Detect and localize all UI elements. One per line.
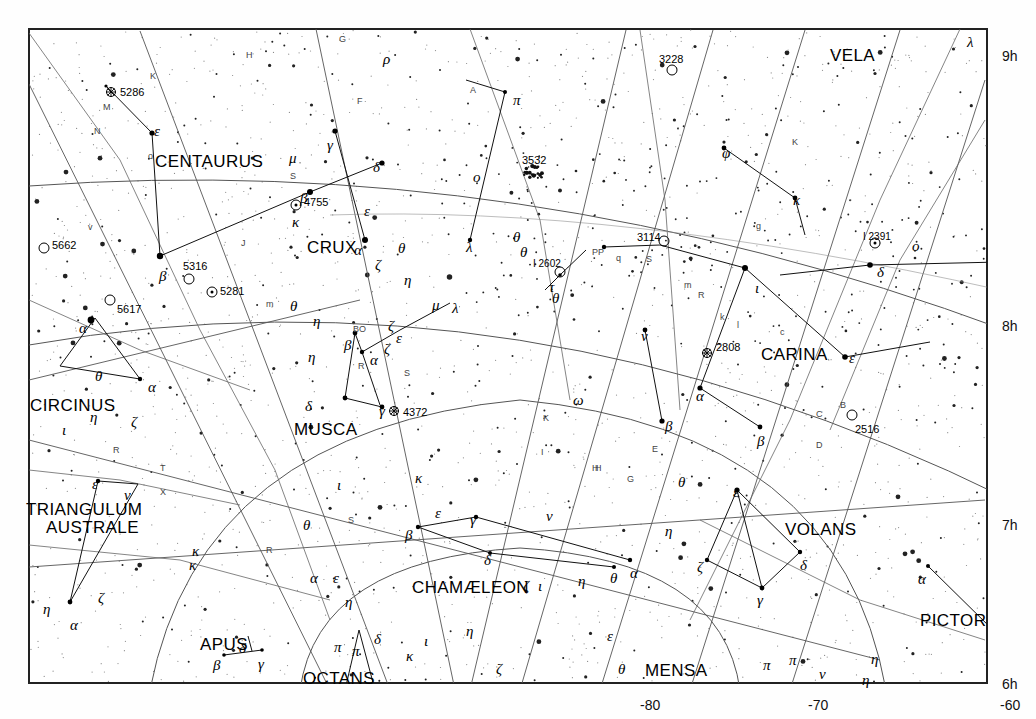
star-point <box>228 199 229 200</box>
star-point <box>522 357 523 358</box>
star-point <box>227 276 228 277</box>
star-point <box>583 457 584 458</box>
bayer-letter: π <box>513 92 521 109</box>
star-point <box>654 289 655 290</box>
star-point <box>311 527 312 528</box>
star-point <box>431 392 434 395</box>
star-point <box>624 47 626 49</box>
star-point <box>280 158 281 159</box>
star-point <box>272 263 273 264</box>
star-point <box>715 249 716 250</box>
star-point <box>265 154 266 155</box>
star-point <box>680 246 682 248</box>
star-point <box>456 61 457 62</box>
star-point <box>331 178 332 179</box>
star-point <box>566 64 567 65</box>
star-point <box>48 78 49 79</box>
star-point <box>720 606 721 607</box>
star-point <box>242 361 243 362</box>
star-point <box>216 470 217 471</box>
star-point <box>642 36 643 37</box>
star-point <box>773 325 775 327</box>
star-point <box>803 188 804 189</box>
star-letter-label: J <box>241 238 246 248</box>
star-point <box>314 391 315 392</box>
star-point <box>355 486 356 487</box>
star-point <box>832 82 833 83</box>
star-point <box>870 578 871 579</box>
deep-sky-object[interactable] <box>106 87 116 97</box>
star-point <box>859 291 860 292</box>
star-point <box>800 121 801 122</box>
star-point <box>143 298 144 299</box>
star-point <box>686 478 687 479</box>
star-point <box>137 563 142 568</box>
star-point <box>680 343 682 345</box>
star-point <box>601 99 606 104</box>
star-point <box>260 49 261 50</box>
bayer-letter: η <box>308 349 315 366</box>
star-point <box>292 64 295 67</box>
star-point <box>185 416 186 417</box>
star-point <box>665 144 667 146</box>
star-point <box>775 108 777 110</box>
star-point <box>564 502 565 503</box>
star-point <box>614 616 615 617</box>
star-point <box>665 515 666 516</box>
constellation-name: CIRCINUS <box>30 396 115 416</box>
star-point <box>440 368 441 369</box>
bayer-letter: θ <box>290 298 297 315</box>
deep-sky-object[interactable] <box>389 406 399 416</box>
star-point <box>409 76 411 78</box>
star-point <box>114 267 115 268</box>
star-point <box>951 283 953 285</box>
star-point <box>963 544 964 545</box>
star-point <box>732 267 733 268</box>
star-point <box>407 130 408 131</box>
star-point <box>154 87 155 88</box>
deep-sky-object[interactable] <box>702 348 712 358</box>
star-point <box>359 492 360 493</box>
star-point <box>504 203 505 204</box>
star-point <box>634 432 635 433</box>
star-point <box>481 36 482 37</box>
star-point <box>742 569 743 570</box>
star-point <box>32 565 33 566</box>
star-point <box>797 261 798 262</box>
star-point <box>378 602 379 603</box>
star-point <box>743 123 744 124</box>
star-point <box>66 261 68 263</box>
deep-sky-label: 3532 <box>522 154 546 166</box>
star-point <box>925 114 926 115</box>
star-point <box>710 253 711 254</box>
star-point <box>531 360 532 361</box>
star-point <box>138 338 140 340</box>
star-point <box>727 45 728 46</box>
star-point <box>195 51 196 52</box>
star-point <box>290 368 291 369</box>
star-point <box>434 189 435 190</box>
star-point <box>295 366 296 367</box>
star-point <box>443 217 445 219</box>
star-point <box>572 677 573 678</box>
star-point <box>58 124 59 125</box>
star-point <box>279 33 281 35</box>
star-point <box>282 285 283 286</box>
bayer-letter: ε <box>92 476 98 493</box>
star-point <box>145 245 146 246</box>
star-point <box>607 58 608 59</box>
star-point <box>710 241 712 243</box>
star-point <box>86 89 88 91</box>
star-point <box>777 646 778 647</box>
star-point <box>845 615 846 616</box>
star-point <box>175 432 176 433</box>
star-point <box>880 489 881 490</box>
star-point <box>172 69 173 70</box>
star-point <box>501 262 503 264</box>
star-point <box>621 142 622 143</box>
star-point <box>824 655 825 656</box>
star-point <box>100 276 101 277</box>
star-point <box>571 126 572 127</box>
star-point <box>351 83 353 85</box>
star-point <box>268 405 269 406</box>
